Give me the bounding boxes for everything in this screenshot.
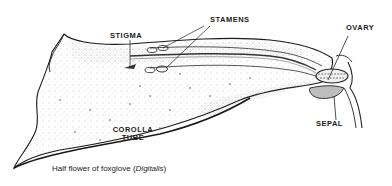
caption-text: Half flower of foxglove (: [52, 164, 136, 173]
foxglove-diagram: STIGMA STAMENS OVARY COROLLA TUBE SEPAL …: [0, 0, 392, 186]
stamens-label: STAMENS: [210, 16, 250, 24]
caption-genus: Digitalis: [136, 164, 164, 173]
corolla-label-line2: TUBE: [110, 134, 156, 142]
caption-close: ): [164, 164, 167, 173]
ovary-label: OVARY: [346, 24, 374, 32]
sepal: [309, 86, 344, 99]
corolla-tube-label: COROLLA TUBE: [110, 126, 156, 142]
stem: [348, 62, 362, 128]
flower-illustration: [0, 0, 392, 186]
figure-caption: Half flower of foxglove (Digitalis): [52, 164, 166, 173]
stigma-label: STIGMA: [110, 32, 142, 40]
sepal-label: SEPAL: [316, 120, 343, 128]
sepal-leader: [334, 96, 336, 120]
